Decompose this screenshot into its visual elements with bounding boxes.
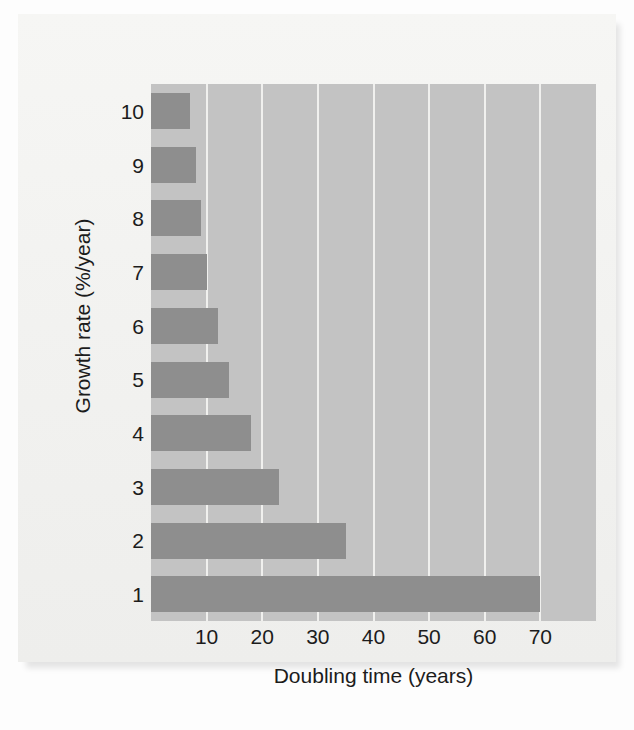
bar-growth-rate-2 (151, 523, 346, 559)
figure-panel: 10987654321 10203040506070 Doubling time… (18, 14, 616, 662)
x-tick-label-20: 20 (237, 626, 287, 647)
bar-row (151, 567, 596, 621)
bar-row (151, 84, 596, 138)
x-axis-tick-labels: 10203040506070 (151, 626, 596, 656)
y-tick-label-5: 5 (98, 369, 144, 390)
figure-root: 10987654321 10203040506070 Doubling time… (0, 0, 634, 730)
y-tick-label-8: 8 (98, 208, 144, 229)
y-tick-label-7: 7 (98, 262, 144, 283)
bar-growth-rate-8 (151, 200, 201, 236)
x-tick-label-50: 50 (404, 626, 454, 647)
bar-row (151, 191, 596, 245)
x-tick-label-10: 10 (182, 626, 232, 647)
y-tick-label-9: 9 (98, 155, 144, 176)
bar-row (151, 353, 596, 407)
bar-row (151, 299, 596, 353)
bar-growth-rate-7 (151, 254, 207, 290)
y-tick-label-10: 10 (98, 101, 144, 122)
bar-row (151, 514, 596, 568)
bar-growth-rate-1 (151, 576, 540, 612)
x-tick-label-40: 40 (349, 626, 399, 647)
x-tick-label-60: 60 (460, 626, 510, 647)
bar-row (151, 406, 596, 460)
bar-growth-rate-9 (151, 147, 196, 183)
y-tick-label-2: 2 (98, 530, 144, 551)
bar-growth-rate-10 (151, 93, 190, 129)
y-axis-tick-labels: 10987654321 (78, 84, 144, 621)
y-tick-label-3: 3 (98, 477, 144, 498)
bar-growth-rate-4 (151, 415, 251, 451)
y-tick-label-1: 1 (98, 584, 144, 605)
x-axis-label: Doubling time (years) (151, 664, 596, 688)
y-tick-label-6: 6 (98, 316, 144, 337)
bar-growth-rate-6 (151, 308, 218, 344)
x-tick-label-30: 30 (293, 626, 343, 647)
bar-row (151, 460, 596, 514)
bar-row (151, 138, 596, 192)
bar-growth-rate-3 (151, 469, 279, 505)
bar-row (151, 245, 596, 299)
y-tick-label-4: 4 (98, 423, 144, 444)
plot-area (151, 84, 596, 621)
bar-growth-rate-5 (151, 362, 229, 398)
x-tick-label-70: 70 (515, 626, 565, 647)
